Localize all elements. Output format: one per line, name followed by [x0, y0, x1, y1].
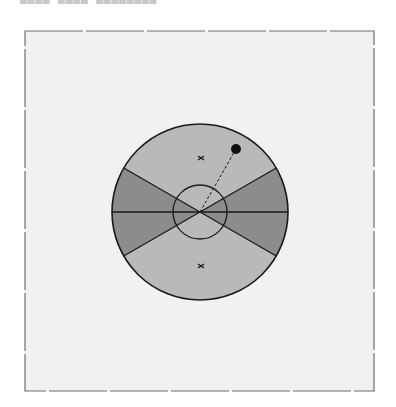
- circular-diagram: [112, 124, 288, 300]
- diagram-canvas: [0, 0, 396, 407]
- point-marker: [231, 144, 241, 154]
